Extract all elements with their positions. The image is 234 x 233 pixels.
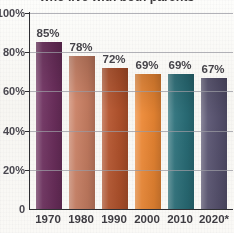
value-label-2010: 69% bbox=[165, 59, 195, 71]
bar-1970 bbox=[36, 42, 62, 209]
bar-shading-vertical bbox=[36, 42, 62, 209]
bar-1980 bbox=[69, 56, 95, 209]
y-axis-line bbox=[29, 12, 30, 210]
bar-shading-vertical bbox=[135, 74, 161, 209]
value-label-1980: 78% bbox=[66, 41, 96, 53]
bar-shading-vertical bbox=[102, 68, 128, 209]
gridline-20 bbox=[30, 170, 233, 171]
gridline-40 bbox=[30, 131, 233, 132]
value-label-1970: 85% bbox=[33, 27, 63, 39]
value-label-1990: 72% bbox=[99, 53, 129, 65]
y-tick-label-100: 100% bbox=[0, 7, 25, 19]
value-label-2000: 69% bbox=[132, 59, 162, 71]
bar-chart: who live with both parents 100% 80% 60% … bbox=[0, 0, 234, 233]
bar-2000 bbox=[135, 74, 161, 209]
bar-1990 bbox=[102, 68, 128, 209]
bar-shading-vertical bbox=[168, 74, 194, 209]
y-tick-label-80: 80% bbox=[3, 46, 25, 58]
bar-shading-vertical bbox=[201, 78, 227, 209]
bar-2020 bbox=[201, 78, 227, 209]
x-tick-label-2020: 2020* bbox=[193, 213, 234, 225]
y-tick-label-60: 60% bbox=[3, 85, 25, 97]
chart-title: who live with both parents bbox=[0, 0, 234, 4]
y-axis-labels: 100% 80% 60% 40% 20% 0 bbox=[0, 0, 25, 233]
y-tick-label-40: 40% bbox=[3, 125, 25, 137]
chart-title-clipped: who live with both parents bbox=[0, 0, 234, 5]
value-label-2020: 67% bbox=[198, 63, 228, 75]
gridline-100 bbox=[30, 13, 233, 14]
y-tick-label-20: 20% bbox=[3, 164, 25, 176]
y-tick-label-0: 0 bbox=[19, 203, 25, 215]
gridline-60 bbox=[30, 91, 233, 92]
bar-shading-vertical bbox=[69, 56, 95, 209]
gridline-80 bbox=[30, 52, 233, 53]
x-axis-line bbox=[29, 209, 233, 211]
bar-2010 bbox=[168, 74, 194, 209]
